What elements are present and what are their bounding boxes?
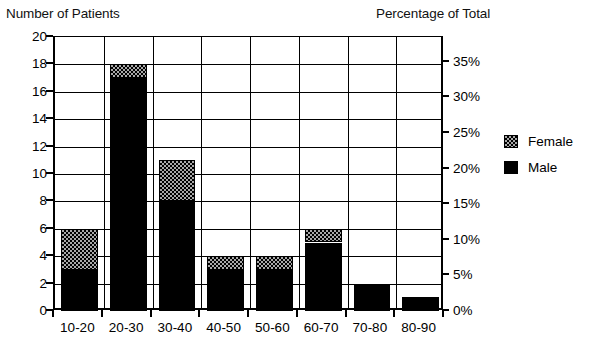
x-axis-tick bbox=[247, 310, 249, 317]
left-axis-tick bbox=[46, 172, 53, 174]
bar-segment-male bbox=[354, 284, 391, 311]
legend-swatch-female bbox=[504, 135, 518, 148]
bar-segment-female bbox=[110, 64, 147, 78]
left-axis-label: 6 bbox=[39, 220, 47, 235]
x-axis-label: 30-40 bbox=[158, 320, 193, 335]
right-axis-tick bbox=[442, 131, 449, 133]
x-axis-tick bbox=[393, 310, 395, 317]
left-axis-label: 16 bbox=[32, 83, 47, 98]
bar-segment-male bbox=[256, 270, 293, 311]
left-axis-label: 20 bbox=[32, 29, 47, 44]
right-axis-label: 20% bbox=[453, 160, 480, 175]
legend-label: Male bbox=[528, 160, 557, 175]
x-axis-label: 20-30 bbox=[109, 320, 144, 335]
x-axis-label: 10-20 bbox=[60, 320, 95, 335]
right-axis-tick bbox=[442, 273, 449, 275]
gridline-vertical bbox=[201, 37, 202, 308]
gridline-vertical bbox=[396, 37, 397, 308]
x-axis-tick bbox=[296, 310, 298, 317]
bar-segment-female bbox=[305, 229, 342, 243]
left-axis-label: 2 bbox=[39, 275, 47, 290]
legend: FemaleMale bbox=[504, 134, 573, 186]
x-axis-tick bbox=[198, 310, 200, 317]
gridline-vertical bbox=[348, 37, 349, 308]
bar-segment-female bbox=[207, 256, 244, 270]
left-axis-tick bbox=[46, 117, 53, 119]
gridline-vertical bbox=[104, 37, 105, 308]
right-axis-tick bbox=[442, 95, 449, 97]
bar-segment-male bbox=[110, 78, 147, 311]
gridline-vertical bbox=[250, 37, 251, 308]
x-axis-tick bbox=[101, 310, 103, 317]
bar-segment-male bbox=[61, 270, 98, 311]
bar-segment-male bbox=[159, 201, 196, 311]
left-axis-tick bbox=[46, 90, 53, 92]
right-axis-tick bbox=[442, 202, 449, 204]
x-axis-tick bbox=[442, 310, 444, 317]
left-axis-tick bbox=[46, 35, 53, 37]
bar-segment-female bbox=[61, 229, 98, 270]
right-axis-tick bbox=[442, 238, 449, 240]
bar-segment-male bbox=[305, 243, 342, 312]
bar-segment-male bbox=[207, 270, 244, 311]
right-axis-label: 10% bbox=[453, 231, 480, 246]
x-axis-tick bbox=[52, 310, 54, 317]
left-axis-label: 4 bbox=[39, 248, 47, 263]
bar-segment-female bbox=[256, 256, 293, 270]
legend-swatch-male bbox=[504, 161, 518, 174]
left-axis-tick bbox=[46, 282, 53, 284]
gridline-vertical bbox=[299, 37, 300, 308]
legend-item: Male bbox=[504, 160, 573, 175]
right-axis-label: 0% bbox=[453, 303, 473, 318]
x-axis-tick bbox=[150, 310, 152, 317]
left-axis-tick bbox=[46, 199, 53, 201]
left-axis-label: 0 bbox=[39, 303, 47, 318]
right-axis-label: 35% bbox=[453, 53, 480, 68]
right-axis-label: 5% bbox=[453, 267, 473, 282]
x-axis-label: 80-90 bbox=[401, 320, 436, 335]
x-axis-label: 40-50 bbox=[206, 320, 241, 335]
right-axis-title: Percentage of Total bbox=[376, 6, 490, 21]
left-axis-title: Number of Patients bbox=[6, 6, 120, 21]
right-axis-tick bbox=[442, 167, 449, 169]
left-axis-label: 14 bbox=[32, 111, 47, 126]
legend-label: Female bbox=[528, 134, 573, 149]
left-axis-tick bbox=[46, 227, 53, 229]
left-axis-label: 10 bbox=[32, 166, 47, 181]
left-axis-label: 8 bbox=[39, 193, 47, 208]
left-axis-label: 12 bbox=[32, 138, 47, 153]
bar-segment-female bbox=[159, 160, 196, 201]
x-axis-label: 70-80 bbox=[353, 320, 388, 335]
gridline-vertical bbox=[153, 37, 154, 308]
right-axis-tick bbox=[442, 60, 449, 62]
x-axis-tick bbox=[345, 310, 347, 317]
right-axis-label: 30% bbox=[453, 89, 480, 104]
right-axis-label: 15% bbox=[453, 196, 480, 211]
legend-item: Female bbox=[504, 134, 573, 149]
left-axis-tick bbox=[46, 62, 53, 64]
x-axis-label: 60-70 bbox=[304, 320, 339, 335]
plot-area bbox=[53, 36, 443, 310]
left-axis-tick bbox=[46, 145, 53, 147]
bar-chart: Number of Patients Percentage of Total 0… bbox=[0, 0, 595, 344]
left-axis-label: 18 bbox=[32, 56, 47, 71]
bar-segment-male bbox=[402, 297, 439, 311]
right-axis-label: 25% bbox=[453, 124, 480, 139]
x-axis-label: 50-60 bbox=[255, 320, 290, 335]
